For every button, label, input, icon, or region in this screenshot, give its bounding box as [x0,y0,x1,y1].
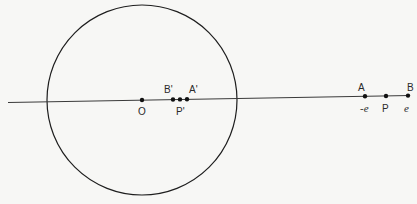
point-o [140,98,144,102]
point-label-a-prime: A' [189,84,198,95]
point-label-o: O [138,106,146,117]
point-a [363,94,367,98]
point-p-prime [178,97,182,101]
point-p [384,94,388,98]
point-label-p-prime: P' [176,106,185,117]
point-label-a: A [358,82,365,93]
point-b-prime [171,97,175,101]
point-a-prime [185,97,189,101]
line-through-center [8,96,410,103]
inversion-diagram: OB'P'A'APB-ee [0,0,417,204]
point-label-b-prime: B' [164,84,173,95]
value-label-e: e [404,102,409,114]
value-label-minus-e: -e [360,102,369,114]
point-label-b: B [407,82,414,93]
point-b [406,93,410,97]
point-label-p: P [382,103,389,114]
